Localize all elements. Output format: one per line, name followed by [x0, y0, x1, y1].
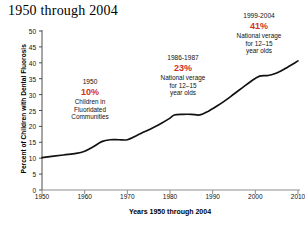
y-tick-label: 40	[22, 59, 36, 66]
annotation-year: 1986-1987	[140, 54, 226, 62]
annotation-1950: 1950 10% Children in Fluoridated Communi…	[50, 78, 130, 121]
annotation-text-line: for 12–15	[216, 40, 302, 48]
y-tick-label: 35	[22, 75, 36, 82]
annotation-1986-1987: 1986-1987 23% National verage for 12–15 …	[140, 54, 226, 97]
annotation-text-line: Communities	[50, 113, 130, 121]
fluorosis-line-chart: 1950 through 2004 Percent of Children wi…	[0, 0, 305, 226]
x-tick-label: 1990	[205, 193, 219, 200]
annotation-1999-2004: 1999-2004 41% National verage for 12–15 …	[216, 12, 302, 55]
annotation-percent: 23%	[140, 63, 226, 74]
y-tick-label: 30	[22, 91, 36, 98]
annotation-text-line: Fluoridated	[50, 106, 130, 114]
y-tick-label: 5	[22, 171, 36, 178]
y-tick-label: 50	[22, 28, 36, 35]
x-tick-label: 2000	[248, 193, 262, 200]
annotation-text-line: year olds	[140, 89, 226, 97]
annotation-text-line: year olds	[216, 47, 302, 55]
x-tick-label: 1960	[77, 193, 91, 200]
annotation-percent: 10%	[50, 87, 130, 98]
annotation-year: 1950	[50, 78, 130, 86]
annotation-text-line: Children in	[50, 98, 130, 106]
x-tick-label: 1980	[163, 193, 177, 200]
annotation-text-line: National verage	[216, 32, 302, 40]
x-tick-label: 2010	[291, 193, 305, 200]
x-tick-label: 1970	[120, 193, 134, 200]
y-tick-label: 15	[22, 139, 36, 146]
annotation-text-line: National verage	[140, 74, 226, 82]
y-tick-label: 45	[22, 43, 36, 50]
y-tick-label: 20	[22, 123, 36, 130]
annotation-percent: 41%	[216, 21, 302, 32]
x-axis-title: Years 1950 through 2004	[42, 208, 298, 215]
y-tick-label: 10	[22, 155, 36, 162]
annotation-year: 1999-2004	[216, 12, 302, 20]
y-tick-label: 25	[22, 107, 36, 114]
x-tick-label: 1950	[35, 193, 49, 200]
annotation-text-line: for 12–15	[140, 82, 226, 90]
